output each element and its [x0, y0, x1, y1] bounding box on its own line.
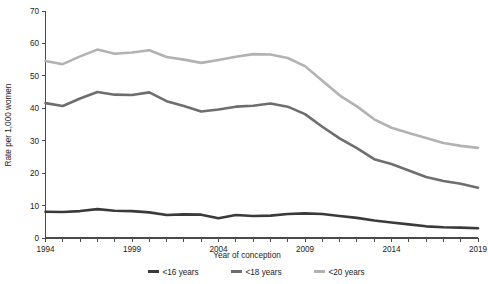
x-axis-title: Year of conception [213, 251, 281, 260]
legend-label: <16 years [163, 268, 199, 277]
series-line-20years [46, 50, 479, 148]
series-line-16years [46, 209, 479, 228]
series-lines [46, 50, 479, 229]
chart-container: 010203040506070 199419992004200920142019… [0, 0, 488, 284]
y-tick-label: 30 [30, 137, 40, 146]
y-tick-label: 40 [30, 104, 40, 113]
legend-label: <18 years [246, 268, 282, 277]
y-axis-title: Rate per 1,000 women [4, 83, 13, 166]
y-tick-label: 70 [30, 7, 40, 16]
legend-label: <20 years [329, 268, 365, 277]
x-tick-label: 1999 [123, 245, 142, 254]
line-chart-svg: 010203040506070 199419992004200920142019… [0, 0, 488, 284]
x-tick-label: 2019 [469, 245, 488, 254]
y-tick-label: 0 [34, 234, 39, 243]
x-tick-label: 2014 [382, 245, 401, 254]
y-tick-label: 60 [30, 39, 40, 48]
series-line-18years [46, 92, 479, 188]
chart-legend: <16 years<18 years<20 years [148, 268, 365, 277]
y-axis: 010203040506070 [30, 7, 46, 243]
x-tick-label: 1994 [36, 245, 55, 254]
x-tick-label: 2009 [296, 245, 315, 254]
y-tick-label: 10 [30, 202, 40, 211]
y-tick-label: 20 [30, 169, 40, 178]
y-tick-label: 50 [30, 72, 40, 81]
